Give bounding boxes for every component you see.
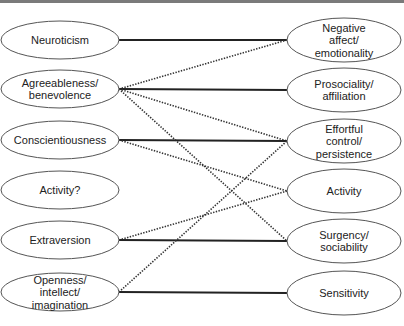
right-node-sensitivity: Sensitivity bbox=[287, 271, 401, 315]
right-node-surgency: Surgency/sociability bbox=[287, 219, 401, 263]
left-node-activity-q: Activity? bbox=[1, 171, 119, 209]
edge-openness-to-effortful-control bbox=[119, 141, 287, 292]
edge-extraversion-to-surgency bbox=[119, 240, 287, 241]
node-label-line: Conscientiousness bbox=[14, 134, 107, 146]
node-label-line: benevolence bbox=[29, 89, 91, 101]
edge-extraversion-to-activity bbox=[119, 191, 287, 240]
node-label-line: emotionality bbox=[315, 47, 374, 59]
node-label-line: Agreeableness/ bbox=[22, 77, 99, 89]
node-label-line: Negative bbox=[322, 22, 365, 34]
node-label-line: Effortful bbox=[325, 123, 363, 135]
right-node-activity: Activity bbox=[287, 169, 401, 213]
edge-agreeableness-to-negative-affect bbox=[119, 40, 287, 89]
edge-conscientiousness-to-activity bbox=[119, 140, 287, 191]
left-node-agreeableness: Agreeableness/benevolence bbox=[1, 70, 119, 108]
node-label-line: Activity bbox=[327, 185, 362, 197]
node-label-line: persistence bbox=[316, 148, 372, 160]
node-label-line: affiliation bbox=[322, 90, 365, 102]
left-node-conscientiousness: Conscientiousness bbox=[1, 121, 119, 159]
node-label-line: control/ bbox=[326, 135, 363, 147]
node-label-line: intellect/ bbox=[40, 286, 81, 298]
right-node-negative-affect: Negativeaffect/emotionality bbox=[287, 18, 401, 62]
node-label-line: Surgency/ bbox=[319, 229, 369, 241]
edge-agreeableness-to-effortful-control bbox=[119, 89, 287, 141]
edges-layer bbox=[119, 40, 287, 293]
node-label-line: Prosociality/ bbox=[314, 78, 374, 90]
node-label-line: Extraversion bbox=[29, 234, 90, 246]
node-label-line: imagination bbox=[32, 299, 88, 311]
node-label-line: Activity? bbox=[40, 184, 81, 196]
node-label-line: sociability bbox=[320, 241, 368, 253]
edge-conscientiousness-to-effortful-control bbox=[119, 140, 287, 141]
right-node-prosociality: Prosociality/affiliation bbox=[287, 68, 401, 112]
edge-agreeableness-to-prosociality bbox=[119, 89, 287, 90]
left-node-extraversion: Extraversion bbox=[1, 221, 119, 259]
node-label-line: Neuroticism bbox=[31, 34, 89, 46]
node-label-line: affect/ bbox=[329, 34, 360, 46]
right-node-effortful-control: Effortfulcontrol/persistence bbox=[287, 119, 401, 163]
edge-openness-to-sensitivity bbox=[119, 292, 287, 293]
left-node-openness: Openness/intellect/imagination bbox=[1, 273, 119, 311]
trait-mapping-diagram: NeuroticismAgreeableness/benevolenceCons… bbox=[0, 0, 404, 326]
nodes-layer: NeuroticismAgreeableness/benevolenceCons… bbox=[1, 18, 401, 315]
node-label-line: Openness/ bbox=[33, 274, 87, 286]
node-label-line: Sensitivity bbox=[319, 287, 369, 299]
left-node-neuroticism: Neuroticism bbox=[1, 21, 119, 59]
